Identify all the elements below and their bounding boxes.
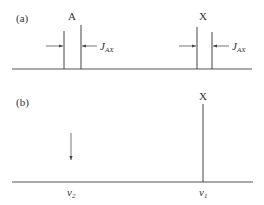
peak-x-singlet-label: X — [199, 90, 207, 102]
peak-x-label: X — [199, 10, 207, 22]
axis-label-v2: v2 — [67, 186, 76, 200]
diagram-svg: (a) A JAX X JAX (b) X v2 v1 — [0, 0, 264, 205]
nmr-decoupling-diagram: (a) A JAX X JAX (b) X v2 v1 — [0, 0, 264, 205]
peak-a-label: A — [68, 10, 76, 22]
panel-b-label: (b) — [16, 96, 29, 109]
panel-a: (a) A JAX X JAX — [12, 10, 252, 69]
panel-a-label: (a) — [16, 12, 29, 25]
coupling-label-a: JAX — [100, 40, 114, 54]
axis-label-v1: v1 — [199, 186, 207, 200]
panel-b: (b) X v2 v1 — [12, 90, 253, 200]
coupling-label-x: JAX — [232, 40, 246, 54]
